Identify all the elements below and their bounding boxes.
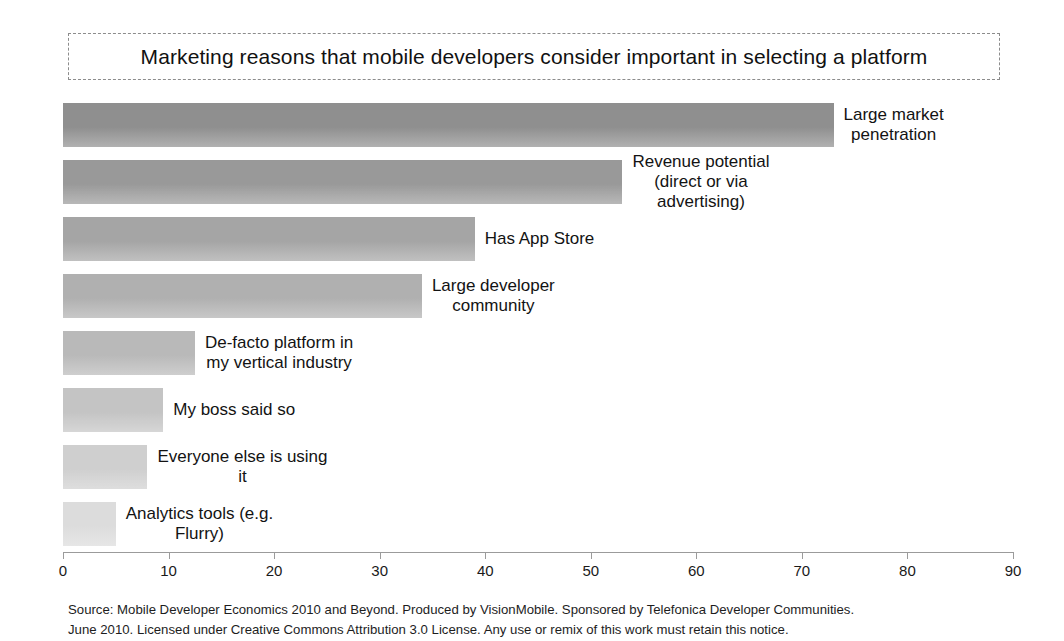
bar-label: Analytics tools (e.g. Flurry) [116,504,273,544]
bar-label: De-facto platform in my vertical industr… [195,333,353,373]
x-axis-tick [63,552,64,559]
source-note: Source: Mobile Developer Economics 2010 … [68,600,1028,641]
source-line-1: Source: Mobile Developer Economics 2010 … [68,600,1028,620]
x-axis-tick [274,552,275,559]
bar-row: Analytics tools (e.g. Flurry) [0,502,1064,546]
bar [63,502,116,546]
x-axis-tick-label: 40 [477,562,494,579]
chart-figure: Marketing reasons that mobile developers… [0,0,1064,641]
x-axis-tick [1013,552,1014,559]
x-axis-tick-label: 30 [371,562,388,579]
x-axis-tick-label: 0 [59,562,67,579]
x-axis-tick-label: 50 [582,562,599,579]
x-axis-tick-label: 90 [1005,562,1022,579]
x-axis-tick-label: 60 [688,562,705,579]
x-axis-tick-label: 80 [899,562,916,579]
bar-row: My boss said so [0,388,1064,432]
source-line-2: June 2010. Licensed under Creative Commo… [68,620,1028,640]
bar-row: Has App Store [0,217,1064,261]
bar [63,388,163,432]
bar [63,331,195,375]
bar-label: Has App Store [475,229,595,249]
bar [63,445,147,489]
x-axis-tick [802,552,803,559]
bar [63,274,422,318]
bar-row: De-facto platform in my vertical industr… [0,331,1064,375]
chart-title-box: Marketing reasons that mobile developers… [68,33,1000,80]
x-axis-tick [485,552,486,559]
bar [63,103,834,147]
bar [63,160,622,204]
bar-row: Large market penetration [0,103,1064,147]
bar-label: Large market penetration [834,105,944,145]
bar-row: Everyone else is using it [0,445,1064,489]
x-axis-tick [169,552,170,559]
bar-label: Revenue potential (direct or via adverti… [622,152,769,212]
x-axis-tick-label: 10 [160,562,177,579]
chart-title: Marketing reasons that mobile developers… [141,45,928,69]
plot-area: Large market penetrationRevenue potentia… [0,95,1064,555]
bar [63,217,475,261]
bar-row: Revenue potential (direct or via adverti… [0,160,1064,204]
bar-row: Large developer community [0,274,1064,318]
x-axis-tick-label: 70 [794,562,811,579]
bar-label: My boss said so [163,400,295,420]
x-axis-line [63,552,1013,553]
bar-label: Large developer community [422,276,555,316]
x-axis-tick [907,552,908,559]
x-axis-tick [696,552,697,559]
x-axis-tick-label: 20 [266,562,283,579]
x-axis-tick [591,552,592,559]
bar-label: Everyone else is using it [147,447,327,487]
x-axis-tick [380,552,381,559]
